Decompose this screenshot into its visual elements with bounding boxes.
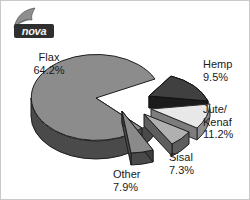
slice-label-sisal: Sisal 7.3% — [169, 151, 209, 176]
pie-chart-figure: nova Flax 64.2% Hemp 9.5% Jute/ Kenaf 11… — [0, 0, 250, 200]
slice-label-hemp: Hemp 9.5% — [203, 58, 250, 83]
logo-plate: nova — [14, 24, 54, 38]
slice-label-flax: Flax 64.2% — [23, 51, 75, 76]
logo-wordmark: nova — [14, 24, 54, 38]
slice-label-jute-kenaf: Jute/ Kenaf 11.2% — [203, 103, 250, 141]
pie-slice-hemp-top — [149, 76, 208, 101]
nova-logo: nova — [9, 7, 65, 41]
slice-label-other: Other 7.9% — [113, 168, 157, 193]
